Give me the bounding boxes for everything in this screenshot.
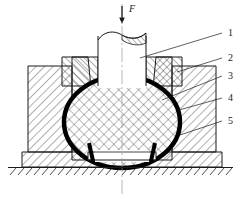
technical-drawing-figure: F (0, 0, 243, 199)
leader-line-1 (140, 33, 222, 58)
cross-section-diagram: F (0, 0, 243, 199)
callout-label-5: 5 (228, 115, 233, 126)
callout-label-4: 4 (228, 92, 233, 103)
callout-label-1: 1 (228, 27, 233, 38)
callout-label-2: 2 (228, 52, 233, 63)
callout-label-3: 3 (228, 70, 233, 81)
force-label: F (128, 3, 136, 14)
